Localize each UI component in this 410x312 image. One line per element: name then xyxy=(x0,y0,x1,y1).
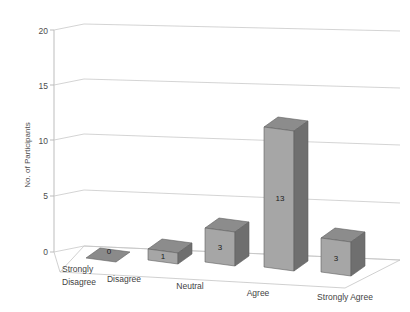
y-axis-ticks: 20 15 10 5 0 xyxy=(39,26,49,257)
bar-disagree[interactable]: 1 xyxy=(148,239,192,264)
bar-neutral[interactable]: 3 xyxy=(205,218,249,266)
x-axis-label-agree: Agree xyxy=(247,288,270,298)
y-axis-line xyxy=(50,30,54,252)
bar-value-label: 0 xyxy=(107,247,112,256)
bar-value-label: 13 xyxy=(276,194,285,203)
bar-value-label: 3 xyxy=(218,243,223,252)
bar-value-label: 1 xyxy=(161,252,166,261)
chart-canvas: No. of Participants 20 15 10 5 0 xyxy=(0,0,410,312)
bar-chart: No. of Participants 20 15 10 5 0 xyxy=(0,0,410,312)
x-axis-label-strongly-agree: Strongly Agree xyxy=(317,292,373,302)
y-tick-label: 15 xyxy=(39,81,49,91)
x-axis-label-strongly-disagree-line1: Strongly xyxy=(62,264,94,274)
bar-strongly-agree[interactable]: 3 xyxy=(321,228,365,276)
y-axis-title-text: No. of Participants xyxy=(23,122,32,187)
bar-agree[interactable]: 13 xyxy=(264,117,308,271)
y-tick-label: 5 xyxy=(43,191,48,201)
y-tick-label: 0 xyxy=(43,247,48,257)
x-axis-label-disagree: Disagree xyxy=(107,274,141,284)
x-axis-label-strongly-disagree-line2: Disagree xyxy=(62,277,96,287)
y-tick-label: 20 xyxy=(39,26,49,36)
x-axis-label-neutral: Neutral xyxy=(176,281,204,291)
bar-value-label: 3 xyxy=(334,254,339,263)
y-axis-title: No. of Participants xyxy=(23,122,32,187)
bar-strongly-disagree[interactable]: 0 xyxy=(86,247,130,262)
y-tick-label: 10 xyxy=(39,136,49,146)
